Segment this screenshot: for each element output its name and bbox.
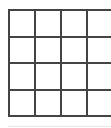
grid-cell-r4c3[interactable] (62, 91, 88, 118)
grid-cell-r3c1[interactable] (10, 64, 36, 91)
grid-cell-r2c1[interactable] (10, 38, 36, 65)
grid-cell-r3c3[interactable] (62, 64, 88, 91)
grid-cell-r1c3[interactable] (62, 11, 88, 38)
canvas (0, 0, 111, 128)
grid-cell-r1c2[interactable] (36, 11, 62, 38)
grid-cell-r4c1[interactable] (10, 91, 36, 118)
grid-cell-r1c4[interactable] (88, 11, 111, 38)
grid-cell-r3c4[interactable] (88, 64, 111, 91)
grid-cell-r2c2[interactable] (36, 38, 62, 65)
grid-cell-r2c3[interactable] (62, 38, 88, 65)
grid-cell-r4c2[interactable] (36, 91, 62, 118)
grid-cell-r1c1[interactable] (10, 11, 36, 38)
grid-cell-r3c2[interactable] (36, 64, 62, 91)
grid-board (8, 9, 111, 117)
grid-cell-r4c4[interactable] (88, 91, 111, 118)
bottom-divider (8, 126, 111, 127)
grid-cell-r2c4[interactable] (88, 38, 111, 65)
